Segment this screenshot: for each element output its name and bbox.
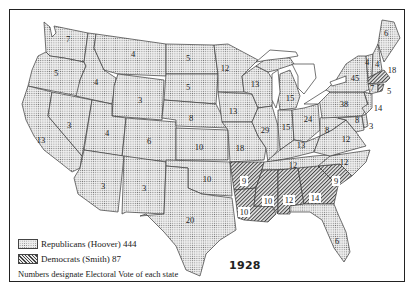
ev-label-ga: 14 bbox=[311, 193, 320, 203]
ev-label-ne: 8 bbox=[189, 113, 193, 123]
ev-label-wv: 8 bbox=[325, 125, 329, 135]
ev-label-al: 12 bbox=[285, 195, 294, 205]
ev-label-nm: 3 bbox=[142, 183, 146, 193]
ev-label-ri: 5 bbox=[387, 86, 391, 96]
ev-label-ok: 10 bbox=[203, 174, 212, 184]
ev-label-in: 15 bbox=[282, 122, 291, 132]
ev-label-la: 10 bbox=[240, 207, 249, 217]
ev-label-md: 8 bbox=[355, 115, 359, 125]
ev-label-sc: 9 bbox=[334, 176, 338, 186]
republican-swatch-icon bbox=[18, 239, 38, 249]
ev-label-az: 3 bbox=[101, 181, 105, 191]
ev-label-mn: 12 bbox=[221, 63, 230, 73]
ev-label-nc: 12 bbox=[340, 157, 349, 167]
ev-label-de: 3 bbox=[369, 121, 373, 131]
ev-label-mi: 15 bbox=[286, 93, 295, 103]
legend-democrats: Democrats (Smith) 87 bbox=[18, 251, 178, 266]
democrat-swatch-icon bbox=[18, 254, 38, 264]
state-north-dakota bbox=[166, 44, 218, 74]
ev-label-ar: 9 bbox=[242, 176, 246, 186]
ev-label-ct: 7 bbox=[370, 83, 374, 93]
ev-label-ca: 13 bbox=[37, 135, 46, 145]
ev-label-mo: 18 bbox=[236, 143, 245, 153]
legend-republicans: Republicans (Hoover) 444 bbox=[18, 236, 178, 251]
ev-label-oh: 24 bbox=[304, 114, 313, 124]
ev-label-ia: 13 bbox=[229, 106, 238, 116]
ev-label-wa: 7 bbox=[66, 34, 70, 44]
ev-label-ny: 45 bbox=[351, 73, 360, 83]
ev-label-wi: 13 bbox=[251, 79, 260, 89]
state-iowa bbox=[218, 92, 258, 122]
ev-label-wy: 3 bbox=[138, 95, 142, 105]
ev-label-co: 6 bbox=[147, 136, 151, 146]
ev-label-ky: 13 bbox=[297, 140, 306, 150]
legend-democrat-label: Democrats (Smith) 87 bbox=[41, 254, 121, 264]
ev-label-ks: 10 bbox=[195, 142, 204, 152]
ev-label-or: 5 bbox=[54, 68, 58, 78]
ev-label-il: 29 bbox=[261, 125, 270, 135]
ev-label-nj: 14 bbox=[374, 103, 383, 113]
ev-label-nv: 3 bbox=[67, 120, 71, 130]
ev-label-fl: 6 bbox=[335, 236, 339, 246]
ev-label-me: 6 bbox=[384, 28, 388, 38]
ev-label-tn: 12 bbox=[289, 160, 298, 170]
ev-label-nd: 5 bbox=[186, 53, 190, 63]
ev-label-sd: 5 bbox=[186, 82, 190, 92]
legend-note: Numbers designate Electoral Vote of each… bbox=[18, 269, 178, 279]
state-florida bbox=[290, 204, 350, 262]
map-year-title: 1928 bbox=[229, 259, 261, 272]
state-south-dakota bbox=[164, 74, 218, 104]
legend-republican-label: Republicans (Hoover) 444 bbox=[41, 239, 136, 249]
ev-label-va: 12 bbox=[342, 134, 351, 144]
ev-label-pa: 38 bbox=[340, 99, 349, 109]
map-legend: Republicans (Hoover) 444 Democrats (Smit… bbox=[18, 236, 178, 279]
state-maine bbox=[378, 20, 400, 62]
ev-label-tx: 20 bbox=[186, 215, 195, 225]
state-rhode-island bbox=[378, 84, 384, 92]
ev-label-ma: 18 bbox=[388, 65, 397, 75]
ev-label-ms: 10 bbox=[264, 196, 273, 206]
state-michigan bbox=[278, 70, 300, 110]
